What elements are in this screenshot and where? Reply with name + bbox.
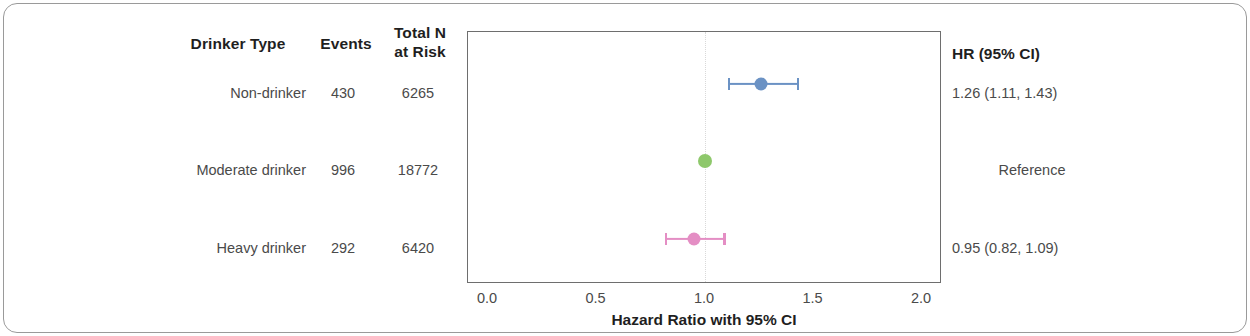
- ci-marker-moderate-drinker: [695, 152, 715, 170]
- column-header-total-n-line2: at Risk: [380, 42, 460, 61]
- hr-value: Reference: [952, 160, 1112, 180]
- x-tick-label: 0.5: [566, 289, 626, 307]
- point-estimate-dot: [755, 78, 768, 91]
- row-label: Moderate drinker: [170, 160, 306, 180]
- table-row: Heavy drinker 292 6420: [170, 238, 460, 258]
- row-label: Non-drinker: [170, 83, 306, 103]
- row-events: 292: [310, 238, 376, 258]
- ci-cap-lower: [728, 78, 730, 90]
- column-header-hr: HR (95% CI): [952, 44, 1112, 63]
- ci-marker-heavy-drinker: [666, 230, 725, 248]
- table-header-row: Drinker Type Events Total N at Risk: [170, 18, 460, 66]
- row-events: 996: [310, 160, 376, 180]
- table-row: Non-drinker 430 6265: [170, 83, 460, 103]
- row-total-n: 18772: [378, 160, 458, 180]
- hr-value: 0.95 (0.82, 1.09): [952, 238, 1112, 258]
- column-header-total-n-line1: Total N: [380, 23, 460, 42]
- x-tick-label: 1.5: [783, 289, 843, 307]
- x-tick-label: 1.0: [674, 289, 734, 307]
- ci-cap-lower: [665, 233, 667, 245]
- plot-area: [467, 31, 941, 283]
- ci-cap-upper: [723, 233, 725, 245]
- column-header-events: Events: [310, 34, 382, 53]
- row-total-n: 6265: [378, 83, 458, 103]
- column-header-drinker-type: Drinker Type: [170, 34, 306, 53]
- x-tick-label: 0.0: [457, 289, 517, 307]
- ci-cap-upper: [797, 78, 799, 90]
- table-row: Moderate drinker 996 18772: [170, 160, 460, 180]
- hr-value: 1.26 (1.11, 1.43): [952, 83, 1112, 103]
- row-total-n: 6420: [378, 238, 458, 258]
- reference-point-dot: [698, 154, 712, 168]
- ci-marker-non-drinker: [729, 75, 798, 93]
- row-events: 430: [310, 83, 376, 103]
- column-header-total-n: Total N at Risk: [380, 23, 460, 61]
- forest-plot-figure: Drinker Type Events Total N at Risk Non-…: [0, 0, 1250, 336]
- point-estimate-dot: [688, 233, 701, 246]
- row-label: Heavy drinker: [170, 238, 306, 258]
- x-tick-label: 2.0: [891, 289, 951, 307]
- x-axis-title: Hazard Ratio with 95% CI: [467, 310, 941, 329]
